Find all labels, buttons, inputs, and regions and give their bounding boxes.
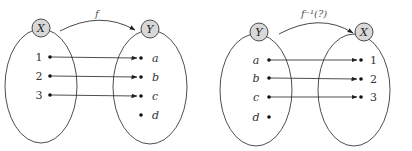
element-dot [139,113,143,117]
element-dot [359,95,363,99]
element-label: b [152,71,159,84]
element-label: 1 [36,51,43,64]
element-label: 3 [36,89,43,102]
element-dot [139,56,143,60]
set-x-ellipse [5,29,77,143]
element-label: 2 [370,73,377,86]
element-label: 2 [36,70,43,83]
mapping-curve-arrow [279,23,353,34]
set-y-ellipse [113,30,187,144]
element-dot [359,58,363,62]
mapping-arrow [51,95,137,96]
mapping-arrow [51,76,137,77]
diagram-f-inverse: f⁻¹(?) Y X a b c d 1 2 3 [220,8,390,146]
set-x-ellipse [318,34,390,146]
element-label: b [252,72,259,85]
mapping-arrow [51,57,137,58]
mapping-label: f⁻¹(?) [300,8,327,19]
element-label: a [253,54,260,67]
element-label: d [152,109,159,122]
element-dot [359,77,363,81]
diagram-f: f X Y 1 2 3 a b c d [5,8,187,144]
element-label: a [152,52,159,65]
set-x-name: X [359,26,369,39]
element-label: 3 [370,91,377,104]
mapping-curve-arrow [60,20,135,31]
element-dot [139,94,143,98]
element-label: c [253,91,259,104]
element-label: c [152,90,158,103]
mapping-arrow [270,78,357,79]
element-dot [267,115,271,119]
element-dot [139,75,143,79]
element-label: d [252,111,259,124]
set-x-name: X [36,22,46,35]
mapping-label: f [94,8,101,19]
set-y-ellipse [220,34,292,146]
function-diagrams: f X Y 1 2 3 a b c d f⁻¹(?) Y X [0,0,412,151]
element-label: 1 [370,54,377,67]
